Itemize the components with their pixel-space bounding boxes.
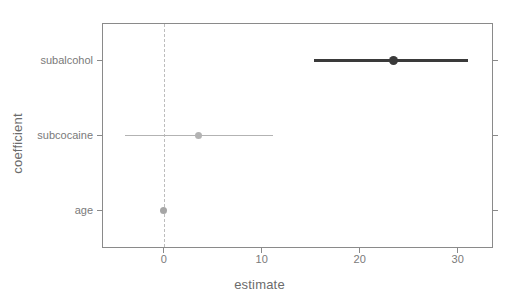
x-tick-label: 10 [242,253,282,265]
x-tick-label: 30 [438,253,478,265]
y-tick-label: age [13,204,93,216]
y-tick-mark-right [493,210,498,211]
x-axis-title: estimate [0,277,519,292]
y-tick-mark-right [493,60,498,61]
y-axis-title: coefficient [10,99,25,189]
y-tick-mark-right [493,135,498,136]
y-tick-mark [97,60,102,61]
plot-panel [102,23,493,248]
y-tick-label: subcocaine [13,129,93,141]
y-tick-mark [97,210,102,211]
y-tick-mark [97,135,102,136]
x-tick-label: 0 [144,253,184,265]
y-tick-label: subalcohol [13,54,93,66]
coefficient-plot: estimate coefficient 0102030subalcoholsu… [0,0,519,305]
x-tick-label: 20 [340,253,380,265]
